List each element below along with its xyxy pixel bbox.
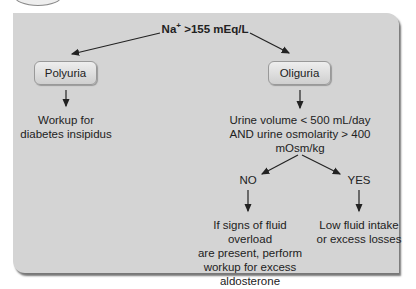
result-line: If signs of fluid overload (190, 218, 310, 246)
criteria-line: AND urine osmolarity > 400 (225, 127, 375, 141)
oliguria-label: Oliguria (280, 67, 320, 79)
no-result: If signs of fluid overload are present, … (190, 218, 310, 288)
polyuria-box: Polyuria (34, 61, 97, 85)
oliguria-criteria: Urine volume < 500 mL/day AND urine osmo… (225, 113, 375, 155)
root-text: >155 mEq/L (181, 23, 248, 35)
yes-result: Low fluid intake or excess losses (313, 218, 405, 246)
criteria-line: Urine volume < 500 mL/day (225, 113, 375, 127)
result-line: or excess losses (313, 232, 405, 246)
polyuria-result: Workup for diabetes insipidus (16, 113, 116, 141)
result-line: Workup for (16, 113, 116, 127)
criteria-line: mOsm/kg (225, 141, 375, 155)
result-line: aldosterone (190, 274, 310, 288)
result-line: workup for excess (190, 260, 310, 274)
no-label: NO (233, 173, 263, 187)
oliguria-box: Oliguria (268, 61, 331, 85)
polyuria-label: Polyuria (45, 67, 87, 79)
root-condition: Na+ >155 mEq/L (130, 19, 280, 36)
result-line: diabetes insipidus (16, 127, 116, 141)
root-prefix: Na (162, 23, 177, 35)
result-line: are present, perform (190, 246, 310, 260)
result-line: Low fluid intake (313, 218, 405, 232)
yes-label: YES (342, 173, 376, 187)
